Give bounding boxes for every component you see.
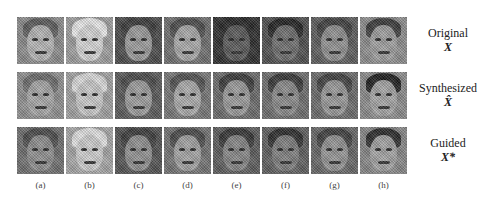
- face-image-synthesized-f: [262, 72, 309, 119]
- face-image-synthesized-a: [17, 72, 64, 119]
- row-guided: [17, 127, 409, 174]
- row-label-guided-symbol: X*: [410, 150, 486, 164]
- face-image-synthesized-g: [311, 72, 358, 119]
- face-image-guided-d: [164, 127, 211, 174]
- column-label-g: (g): [311, 180, 358, 190]
- column-label-h: (h): [360, 180, 407, 190]
- column-label-f: (f): [262, 180, 309, 190]
- face-image-guided-e: [213, 127, 260, 174]
- row-label-synthesized-text: Synthesized: [419, 81, 477, 95]
- row-original: [17, 17, 409, 64]
- face-image-synthesized-e: [213, 72, 260, 119]
- face-image-synthesized-h: [360, 72, 407, 119]
- row-synthesized: [17, 72, 409, 119]
- face-image-synthesized-b: [66, 72, 113, 119]
- face-image-original-b: [66, 17, 113, 64]
- face-image-original-f: [262, 17, 309, 64]
- row-label-synthesized-symbol: X̂: [410, 95, 486, 109]
- face-image-guided-a: [17, 127, 64, 174]
- face-image-guided-h: [360, 127, 407, 174]
- face-image-original-d: [164, 17, 211, 64]
- face-image-synthesized-d: [164, 72, 211, 119]
- face-image-original-h: [360, 17, 407, 64]
- face-image-guided-g: [311, 127, 358, 174]
- row-label-guided: Guided X*: [410, 136, 486, 164]
- column-label-c: (c): [115, 180, 162, 190]
- face-image-guided-f: [262, 127, 309, 174]
- column-label-a: (a): [17, 180, 64, 190]
- face-image-original-c: [115, 17, 162, 64]
- row-label-original: Original X: [410, 26, 486, 54]
- row-label-original-symbol: X: [410, 40, 486, 54]
- face-image-guided-b: [66, 127, 113, 174]
- face-image-synthesized-c: [115, 72, 162, 119]
- row-label-synthesized: Synthesized X̂: [410, 81, 486, 109]
- face-image-original-g: [311, 17, 358, 64]
- face-image-original-e: [213, 17, 260, 64]
- column-label-b: (b): [66, 180, 113, 190]
- row-label-original-text: Original: [428, 26, 468, 40]
- column-label-d: (d): [164, 180, 211, 190]
- column-label-e: (e): [213, 180, 260, 190]
- face-image-original-a: [17, 17, 64, 64]
- row-label-guided-text: Guided: [430, 136, 465, 150]
- face-image-guided-c: [115, 127, 162, 174]
